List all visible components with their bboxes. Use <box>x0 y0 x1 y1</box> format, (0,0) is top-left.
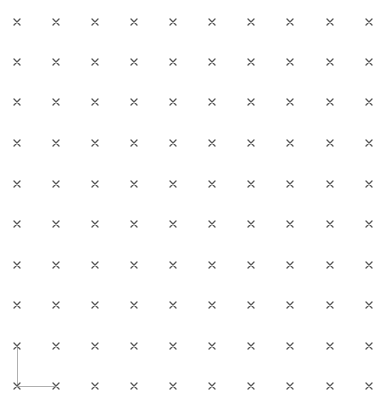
x-mark-icon <box>89 340 101 352</box>
x-mark-icon <box>284 340 296 352</box>
x-mark-icon <box>167 218 179 230</box>
x-mark-icon <box>50 340 62 352</box>
x-mark-icon <box>89 96 101 108</box>
x-mark-icon <box>363 299 375 311</box>
x-mark-icon <box>128 340 140 352</box>
x-mark-icon <box>128 259 140 271</box>
x-mark-icon <box>167 16 179 28</box>
x-mark-icon <box>128 299 140 311</box>
x-mark-icon <box>50 137 62 149</box>
x-mark-icon <box>284 259 296 271</box>
x-mark-icon <box>284 137 296 149</box>
x-mark-icon <box>128 380 140 392</box>
x-mark-icon <box>11 218 23 230</box>
x-mark-icon <box>284 96 296 108</box>
x-mark-icon <box>128 16 140 28</box>
x-mark-icon <box>245 218 257 230</box>
x-mark-icon <box>50 259 62 271</box>
x-mark-icon <box>50 96 62 108</box>
x-mark-icon <box>89 137 101 149</box>
x-mark-icon <box>363 137 375 149</box>
x-mark-icon <box>128 218 140 230</box>
x-mark-icon <box>167 299 179 311</box>
x-mark-icon <box>363 178 375 190</box>
x-mark-icon <box>128 137 140 149</box>
x-mark-icon <box>167 56 179 68</box>
x-mark-icon <box>128 56 140 68</box>
x-mark-icon <box>89 259 101 271</box>
x-mark-icon <box>128 96 140 108</box>
x-mark-icon <box>11 299 23 311</box>
x-mark-icon <box>324 137 336 149</box>
x-mark-icon <box>206 259 218 271</box>
x-mark-icon <box>167 96 179 108</box>
x-mark-icon <box>11 96 23 108</box>
x-mark-icon <box>167 137 179 149</box>
x-mark-icon <box>363 259 375 271</box>
x-mark-icon <box>11 137 23 149</box>
x-mark-icon <box>363 96 375 108</box>
x-mark-icon <box>245 380 257 392</box>
x-mark-icon <box>11 340 23 352</box>
x-mark-icon <box>89 380 101 392</box>
x-mark-icon <box>324 259 336 271</box>
x-mark-icon <box>363 218 375 230</box>
x-mark-icon <box>324 56 336 68</box>
x-mark-icon <box>89 178 101 190</box>
x-mark-icon <box>11 178 23 190</box>
x-mark-icon <box>167 178 179 190</box>
x-mark-icon <box>245 137 257 149</box>
x-mark-icon <box>206 299 218 311</box>
x-mark-icon <box>89 218 101 230</box>
x-mark-icon <box>245 340 257 352</box>
x-mark-icon <box>50 218 62 230</box>
x-mark-icon <box>363 340 375 352</box>
x-mark-icon <box>324 96 336 108</box>
x-mark-icon <box>284 56 296 68</box>
x-mark-icon <box>363 380 375 392</box>
x-mark-icon <box>11 56 23 68</box>
x-mark-icon <box>89 16 101 28</box>
x-mark-icon <box>363 16 375 28</box>
x-mark-icon <box>324 299 336 311</box>
x-mark-icon <box>284 380 296 392</box>
x-mark-icon <box>206 137 218 149</box>
x-mark-icon <box>11 16 23 28</box>
x-mark-icon <box>11 380 23 392</box>
x-mark-icon <box>11 259 23 271</box>
x-mark-icon <box>284 218 296 230</box>
x-mark-icon <box>206 56 218 68</box>
x-mark-icon <box>245 96 257 108</box>
x-mark-icon <box>167 380 179 392</box>
x-mark-icon <box>324 178 336 190</box>
x-mark-icon <box>50 178 62 190</box>
x-mark-icon <box>206 16 218 28</box>
x-mark-icon <box>50 299 62 311</box>
x-mark-icon <box>206 178 218 190</box>
x-mark-icon <box>363 56 375 68</box>
x-mark-icon <box>206 340 218 352</box>
x-mark-icon <box>324 218 336 230</box>
x-mark-icon <box>245 259 257 271</box>
x-mark-icon <box>89 56 101 68</box>
x-mark-icon <box>284 178 296 190</box>
x-mark-icon <box>206 96 218 108</box>
x-mark-icon <box>245 178 257 190</box>
x-mark-icon <box>284 16 296 28</box>
x-mark-icon <box>206 380 218 392</box>
x-mark-icon <box>324 340 336 352</box>
x-mark-icon <box>245 16 257 28</box>
x-mark-icon <box>50 16 62 28</box>
x-mark-icon <box>245 299 257 311</box>
x-mark-icon <box>167 259 179 271</box>
x-mark-icon <box>50 380 62 392</box>
x-mark-icon <box>284 299 296 311</box>
x-mark-icon <box>245 56 257 68</box>
x-mark-icon <box>128 178 140 190</box>
x-mark-icon <box>324 380 336 392</box>
x-mark-icon <box>206 218 218 230</box>
x-mark-icon <box>50 56 62 68</box>
x-mark-icon <box>89 299 101 311</box>
x-mark-icon <box>167 340 179 352</box>
x-mark-icon <box>324 16 336 28</box>
